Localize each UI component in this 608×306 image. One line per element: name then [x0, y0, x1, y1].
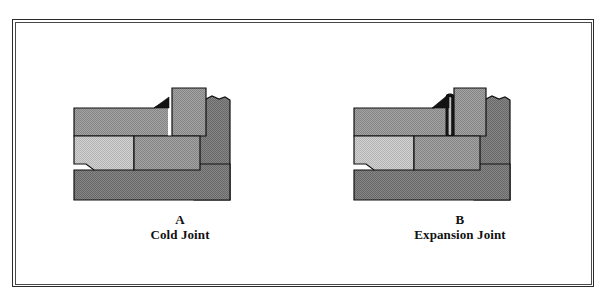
upper-wall-column [454, 88, 486, 136]
upper-wall-left [74, 99, 169, 136]
slab-right-mid [134, 136, 200, 170]
slab-right-mid [414, 136, 480, 170]
joint-wedge [432, 94, 449, 108]
joint-wedge [154, 97, 169, 108]
upper-wall-left [354, 99, 447, 136]
caption-letter-b: B [360, 212, 560, 227]
caption-title-a: Cold Joint [80, 227, 280, 242]
diagram-panel-a [72, 78, 262, 203]
caption-panel-b: B Expansion Joint [360, 212, 560, 243]
diagram-panel-b [352, 78, 542, 203]
caption-title-b: Expansion Joint [360, 227, 560, 242]
caption-letter-a: A [80, 212, 280, 227]
expansion-joint-cross-section [352, 78, 542, 203]
caption-panel-a: A Cold Joint [80, 212, 280, 243]
cold-joint-cross-section [72, 78, 262, 203]
slab-left-light [74, 136, 134, 170]
figure-page: A Cold Joint B Expansion Joint [0, 0, 608, 306]
upper-wall-column [172, 88, 206, 136]
slab-left-light [354, 136, 414, 170]
